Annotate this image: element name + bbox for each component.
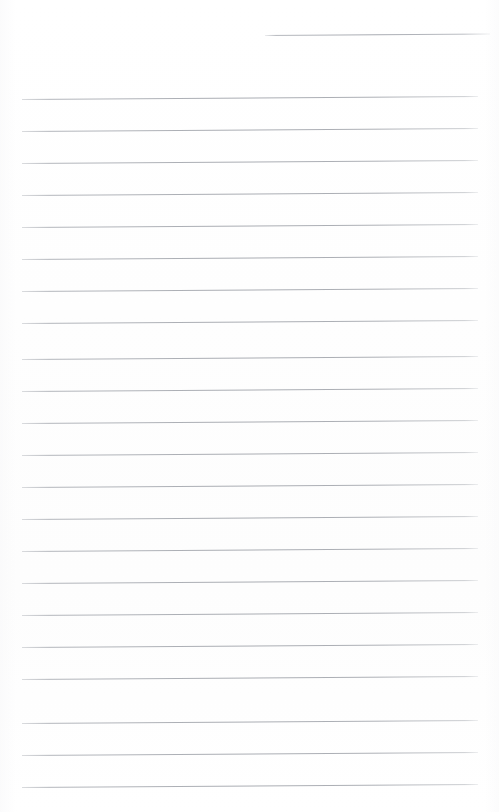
rule-line [22, 784, 478, 788]
rule-line [22, 720, 478, 724]
rule-line [22, 644, 478, 648]
rule-line [22, 288, 478, 292]
rule-line [22, 548, 478, 552]
rule-line [22, 256, 478, 260]
rule-line [22, 676, 478, 680]
rule-line [22, 484, 478, 488]
rule-line [22, 192, 478, 196]
rule-line [22, 356, 478, 360]
rule-line [22, 420, 478, 424]
document-page [0, 0, 499, 812]
rule-line [22, 580, 478, 584]
rule-line [22, 320, 478, 324]
rule-line [22, 224, 478, 228]
rule-line [22, 160, 478, 164]
rule-line [22, 752, 478, 756]
rule-line [22, 452, 478, 456]
ruled-lines-layer [0, 0, 499, 812]
rule-line [22, 612, 478, 616]
rule-line [22, 516, 478, 520]
rule-line-partial [265, 34, 490, 36]
rule-line [22, 388, 478, 392]
rule-line [22, 96, 478, 100]
rule-line [22, 128, 478, 132]
